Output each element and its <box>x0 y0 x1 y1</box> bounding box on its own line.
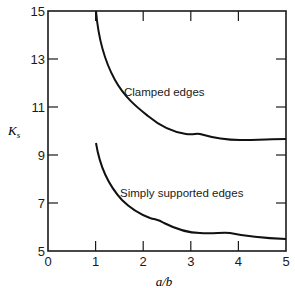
x-tick-0: 0 <box>44 254 51 269</box>
x-tick-2: 2 <box>140 254 147 269</box>
chart: 0 1 2 3 4 5 5 7 9 11 13 15 a/b Ks Clampe… <box>0 0 295 288</box>
x-ticks <box>96 11 239 251</box>
y-axis-title: Ks <box>7 123 21 140</box>
y-tick-labels: 5 7 9 11 13 15 <box>31 4 45 259</box>
x-tick-4: 4 <box>235 254 242 269</box>
y-tick-7: 7 <box>38 196 45 211</box>
x-tick-labels: 0 1 2 3 4 5 <box>44 254 289 269</box>
y-tick-15: 15 <box>31 4 45 19</box>
y-tick-5: 5 <box>38 244 45 259</box>
y-tick-13: 13 <box>31 52 45 67</box>
y-tick-11: 11 <box>32 100 46 115</box>
x-tick-5: 5 <box>282 254 289 269</box>
simply-supported-label: Simply supported edges <box>120 187 244 199</box>
clamped-edges-curve <box>96 11 286 140</box>
clamped-edges-label: Clamped edges <box>124 86 205 98</box>
y-ticks <box>48 59 286 203</box>
y-tick-9: 9 <box>38 148 45 163</box>
x-tick-3: 3 <box>187 254 194 269</box>
plot-frame <box>48 11 286 251</box>
x-tick-1: 1 <box>92 254 99 269</box>
x-axis-title: a/b <box>156 274 173 288</box>
